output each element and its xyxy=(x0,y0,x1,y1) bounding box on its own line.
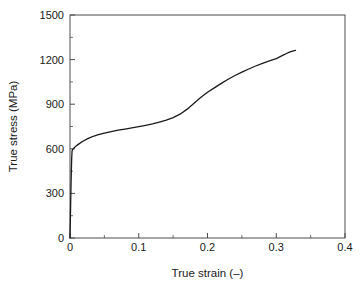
stress-strain-curve xyxy=(70,50,296,238)
x-axis-major-ticks xyxy=(70,233,345,238)
true-stress-strain-chart: 00.10.20.30.4 030060090012001500 True st… xyxy=(0,0,363,285)
y-tick-label: 900 xyxy=(46,98,64,110)
y-tick-label: 1200 xyxy=(40,54,64,66)
x-tick-label: 0 xyxy=(67,241,73,253)
chart-figure: 00.10.20.30.4 030060090012001500 True st… xyxy=(0,0,363,285)
x-tick-label: 0.2 xyxy=(200,241,215,253)
x-tick-label: 0.3 xyxy=(269,241,284,253)
x-tick-label: 0.1 xyxy=(131,241,146,253)
y-axis-title: True stress (MPa) xyxy=(7,81,19,173)
x-axis-tick-labels: 00.10.20.30.4 xyxy=(67,241,353,253)
y-tick-label: 600 xyxy=(46,143,64,155)
y-tick-label: 0 xyxy=(58,232,64,244)
y-tick-label: 1500 xyxy=(40,9,64,21)
x-axis-title: True strain (–) xyxy=(172,267,244,279)
plot-frame xyxy=(70,15,345,238)
x-tick-label: 0.4 xyxy=(337,241,352,253)
y-tick-label: 300 xyxy=(46,187,64,199)
y-axis-tick-labels: 030060090012001500 xyxy=(40,9,64,244)
